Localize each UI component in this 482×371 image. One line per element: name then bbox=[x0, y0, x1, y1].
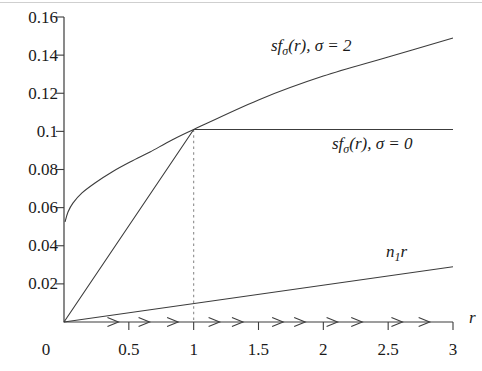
y-tick-label: 0.14 bbox=[8, 47, 58, 64]
figure: 0.020.040.060.080.10.120.140.160.511.522… bbox=[0, 0, 482, 371]
x-tick-label: 0.5 bbox=[107, 341, 151, 358]
label-sf-sigma-0: sfσ(r), σ = 0 bbox=[332, 135, 413, 153]
x-axis-title: r bbox=[469, 309, 476, 327]
x-tick-label: 2 bbox=[301, 341, 345, 358]
label-sf-sigma-2-base: sf bbox=[271, 36, 282, 55]
label-n1r-rest: r bbox=[401, 242, 408, 261]
y-tick-label: 0.12 bbox=[8, 85, 58, 102]
axes bbox=[64, 17, 453, 322]
line-n1r bbox=[64, 267, 453, 322]
label-sf-sigma-2: sfσ(r), σ = 2 bbox=[271, 37, 352, 55]
y-tick-label: 0.02 bbox=[8, 275, 58, 292]
y-tick-label: 0.16 bbox=[8, 9, 58, 26]
x-tick-label: 1 bbox=[172, 341, 216, 358]
y-tick-label: 0.08 bbox=[8, 161, 58, 178]
x-tick-label: 1.5 bbox=[236, 341, 280, 358]
x-tick-label: 3 bbox=[431, 341, 475, 358]
label-n1r: n1r bbox=[386, 243, 407, 261]
label-sf-sigma-0-rest: (r), σ = 0 bbox=[349, 134, 412, 153]
origin-tick-label: 0 bbox=[24, 341, 68, 359]
y-tick-label: 0.06 bbox=[8, 199, 58, 216]
y-tick-label: 0.04 bbox=[8, 237, 58, 254]
label-n1r-base: n bbox=[386, 242, 395, 261]
plot-canvas bbox=[0, 0, 482, 371]
x-tick-label: 2.5 bbox=[366, 341, 410, 358]
label-sf-sigma-2-rest: (r), σ = 2 bbox=[288, 36, 351, 55]
label-sf-sigma-0-base: sf bbox=[332, 134, 343, 153]
y-tick-label: 0.1 bbox=[8, 123, 58, 140]
curve-sf-sigma-0 bbox=[64, 130, 453, 323]
